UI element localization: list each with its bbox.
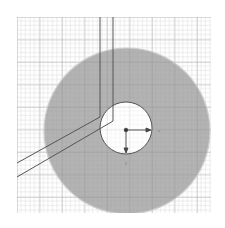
sketch-canvas[interactable]: x y: [0, 0, 225, 228]
y-axis-label: y: [125, 161, 127, 165]
x-axis-label: x: [158, 129, 160, 133]
origin-point-icon: [124, 128, 128, 132]
